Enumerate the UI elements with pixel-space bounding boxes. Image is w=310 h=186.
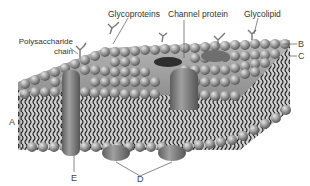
- cell-membrane-diagram: Polysaccharide chain Glycoproteins Chann…: [0, 0, 310, 186]
- glycoprotein-surface-protein: [201, 50, 229, 62]
- label-line-1: Polysaccharide: [13, 38, 73, 46]
- label-letter-b: B: [298, 40, 304, 49]
- peripheral-protein-d-left: [102, 145, 130, 161]
- label-letter-e: E: [71, 174, 77, 183]
- label-polysaccharide-chain: Polysaccharide chain: [13, 38, 73, 56]
- transmembrane-protein-e: [62, 70, 80, 156]
- label-channel-protein: Channel protein: [168, 10, 228, 19]
- label-letter-c: C: [298, 52, 305, 61]
- membrane-illustration: [0, 0, 310, 186]
- label-glycolipid: Glycolipid: [244, 10, 281, 19]
- label-line-2: chain: [13, 48, 73, 56]
- label-letter-d: D: [137, 175, 144, 184]
- label-glycoproteins: Glycoproteins: [108, 10, 160, 19]
- label-letter-a: A: [9, 118, 15, 127]
- peripheral-protein-d-right: [158, 145, 186, 161]
